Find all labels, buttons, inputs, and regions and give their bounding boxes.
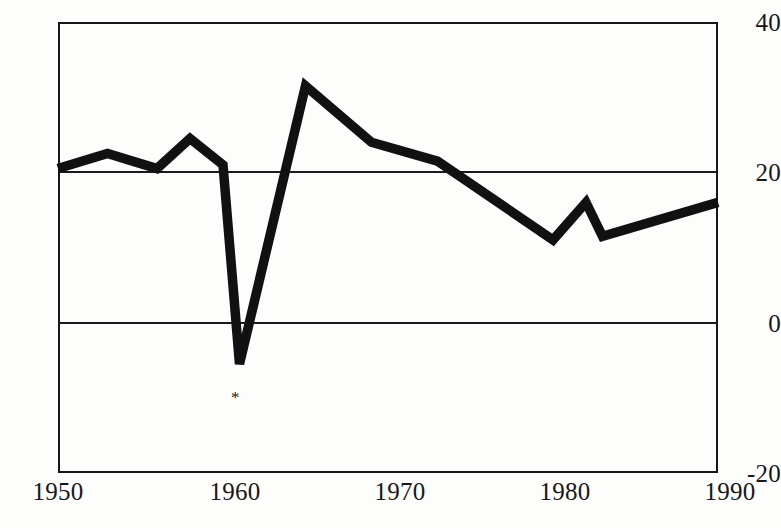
gridlines <box>58 172 718 323</box>
data-series-line <box>58 86 718 364</box>
y-tick-label-0: 0 <box>729 311 781 336</box>
chart-figure: 40 20 0 -20 1950 1960 1970 1980 1990 * <box>0 0 781 528</box>
x-tick-label-1970: 1970 <box>352 479 448 504</box>
y-tick-label-40: 40 <box>729 10 781 35</box>
x-tick-label-1950: 1950 <box>10 479 106 504</box>
x-tick-label-1960: 1960 <box>187 479 283 504</box>
chart-canvas <box>0 0 781 528</box>
data-series-group <box>58 86 718 364</box>
asterisk-annotation-marker: * <box>231 389 240 406</box>
x-tick-label-1990: 1990 <box>682 479 778 504</box>
y-tick-label-20: 20 <box>729 160 781 185</box>
x-tick-label-1980: 1980 <box>517 479 613 504</box>
